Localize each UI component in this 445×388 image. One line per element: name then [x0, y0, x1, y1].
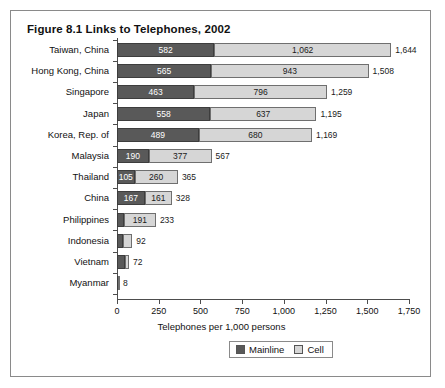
bar-row: 8 [11, 276, 432, 290]
bar-segment-cell [123, 234, 132, 248]
x-axis-tick [326, 300, 327, 304]
bar-row: 4637961,259 [11, 85, 432, 99]
bar-row: 72 [11, 255, 432, 269]
legend-label-cell: Cell [307, 344, 323, 355]
bar-total-label: 1,169 [316, 128, 337, 142]
x-axis-tick [367, 300, 368, 304]
y-axis-tick [113, 40, 117, 41]
x-axis-title: Telephones per 1,000 persons [11, 321, 432, 332]
x-axis-tick-label: 750 [235, 306, 250, 316]
x-axis-tick-label: 1,750 [398, 306, 421, 316]
bar-value-mainline: 190 [117, 149, 149, 163]
y-axis-tick [113, 146, 117, 147]
legend-swatch-cell-icon [294, 345, 303, 354]
bar-segment-cell [118, 276, 120, 290]
chart-legend: Mainline Cell [229, 341, 333, 358]
x-axis-tick [409, 300, 410, 304]
legend-item-mainline: Mainline [236, 344, 284, 355]
x-axis-tick [159, 300, 160, 304]
bar-value-mainline: 582 [117, 43, 214, 57]
bar-total-label: 1,259 [331, 85, 352, 99]
bar-value-cell: 161 [145, 191, 172, 205]
bar-value-mainline: 105 [117, 170, 135, 184]
y-axis-tick [113, 124, 117, 125]
bar-total-label: 92 [136, 234, 145, 248]
x-axis-tick-label: 1,250 [314, 306, 337, 316]
bar-row: 5659431,508 [11, 64, 432, 78]
bar-value-cell: 1,062 [214, 43, 391, 57]
bar-segment-mainline [117, 213, 124, 227]
bar-total-label: 1,508 [373, 64, 394, 78]
x-axis-tick-label: 500 [193, 306, 208, 316]
bar-total-label: 1,195 [320, 107, 341, 121]
bar-row: 5821,0621,644 [11, 43, 432, 57]
bar-total-label: 233 [160, 213, 174, 227]
y-axis-tick [113, 230, 117, 231]
x-axis-tick [284, 300, 285, 304]
bar-value-mainline: 167 [117, 191, 145, 205]
y-axis-tick [113, 188, 117, 189]
y-axis-tick [113, 61, 117, 62]
y-axis-tick [113, 273, 117, 274]
bar-segment-cell [125, 255, 129, 269]
bar-row: 92 [11, 234, 432, 248]
x-axis-line [117, 299, 410, 300]
bar-total-label: 8 [123, 276, 128, 290]
bar-row: 105260365 [11, 170, 432, 184]
bar-value-cell: 680 [199, 128, 312, 142]
figure-panel: Figure 8.1 Links to Telephones, 2002 Tai… [10, 10, 431, 377]
bar-value-cell: 191 [124, 213, 156, 227]
y-axis-tick [113, 103, 117, 104]
bar-value-cell: 796 [194, 85, 327, 99]
bar-row: 5586371,195 [11, 107, 432, 121]
y-axis-tick [113, 209, 117, 210]
bar-value-mainline: 463 [117, 85, 194, 99]
bar-total-label: 365 [182, 170, 196, 184]
bar-value-mainline: 489 [117, 128, 199, 142]
x-axis-tick [242, 300, 243, 304]
y-axis-tick [113, 252, 117, 253]
bar-row: 190377567 [11, 149, 432, 163]
legend-swatch-mainline-icon [236, 345, 245, 354]
x-axis-tick-label: 250 [151, 306, 166, 316]
bar-row: 191233 [11, 213, 432, 227]
bar-total-label: 72 [133, 255, 142, 269]
bar-segment-mainline [117, 255, 125, 269]
x-axis-tick [200, 300, 201, 304]
bar-value-cell: 377 [149, 149, 212, 163]
bar-value-mainline: 558 [117, 107, 210, 121]
y-axis-tick [113, 294, 117, 295]
bar-value-cell: 637 [210, 107, 316, 121]
x-axis-tick-label: 0 [114, 306, 119, 316]
x-axis-tick-label: 1,000 [273, 306, 296, 316]
chart-plot-area: Taiwan, ChinaHong Kong, ChinaSingaporeJa… [11, 11, 432, 378]
y-axis-tick [113, 167, 117, 168]
y-axis-tick [113, 82, 117, 83]
bar-total-label: 567 [216, 149, 230, 163]
x-axis-tick-label: 1,500 [356, 306, 379, 316]
legend-label-mainline: Mainline [249, 344, 284, 355]
bar-row: 4896801,169 [11, 128, 432, 142]
bar-value-cell: 943 [211, 64, 368, 78]
bar-total-label: 1,644 [395, 43, 416, 57]
bar-value-mainline: 565 [117, 64, 211, 78]
bar-value-cell: 260 [135, 170, 178, 184]
legend-item-cell: Cell [294, 344, 323, 355]
bar-total-label: 328 [176, 191, 190, 205]
bar-row: 167161328 [11, 191, 432, 205]
x-axis-tick [117, 300, 118, 304]
